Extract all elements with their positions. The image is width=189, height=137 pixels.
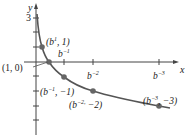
x-axis-arrow-icon xyxy=(173,60,179,64)
point-bm2 xyxy=(90,88,96,94)
point-label-bm1: (b−1, −1) xyxy=(40,86,74,98)
log-graph: y x 3 (b1, 1) (1, 0) (b−1, −1) (b−2, −2)… xyxy=(0,0,189,137)
x-tick-label-bm1: b−1 xyxy=(58,48,70,59)
x-tick-label-bm2: b−2 xyxy=(87,70,99,81)
x-axis-label: x xyxy=(179,64,185,75)
leader-line xyxy=(33,62,48,67)
point-label-1-0: (1, 0) xyxy=(2,63,23,74)
y-tick-label-3: 3 xyxy=(26,12,31,23)
point-b1 xyxy=(39,44,45,50)
point-label-b1: (b1, 1) xyxy=(46,36,70,48)
point-label-bm3: (b−3, −3) xyxy=(143,95,177,107)
point-bm1 xyxy=(61,74,67,80)
y-axis-arrow-icon xyxy=(34,3,38,9)
x-tick-label-bm3: b−3 xyxy=(153,70,165,81)
point-label-bm2: (b−2, −2) xyxy=(69,99,102,111)
